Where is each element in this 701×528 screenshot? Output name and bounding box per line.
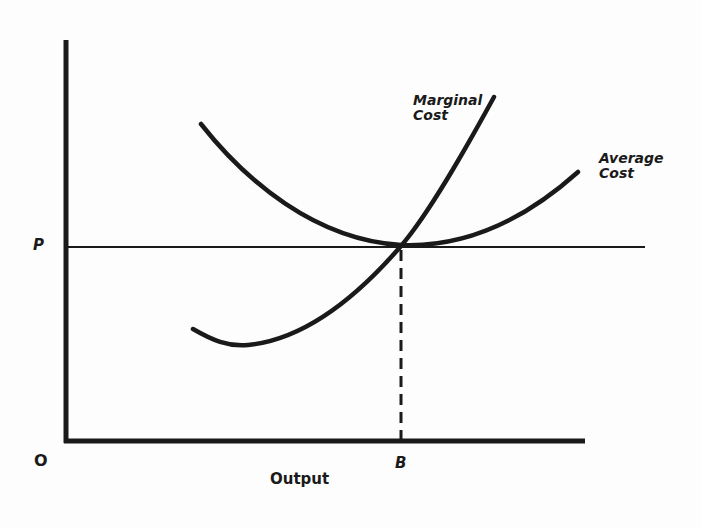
origin-label: O [34, 453, 48, 470]
marginal-cost-curve [193, 97, 494, 345]
cost-curve-diagram [0, 0, 701, 528]
average-cost-label: Average Cost [599, 151, 664, 180]
average-cost-curve [201, 124, 578, 245]
x-axis-title: Output [270, 472, 329, 488]
output-b-label: B [395, 456, 406, 472]
marginal-cost-label: Marginal Cost [413, 93, 482, 122]
price-label-p: P [33, 238, 44, 254]
